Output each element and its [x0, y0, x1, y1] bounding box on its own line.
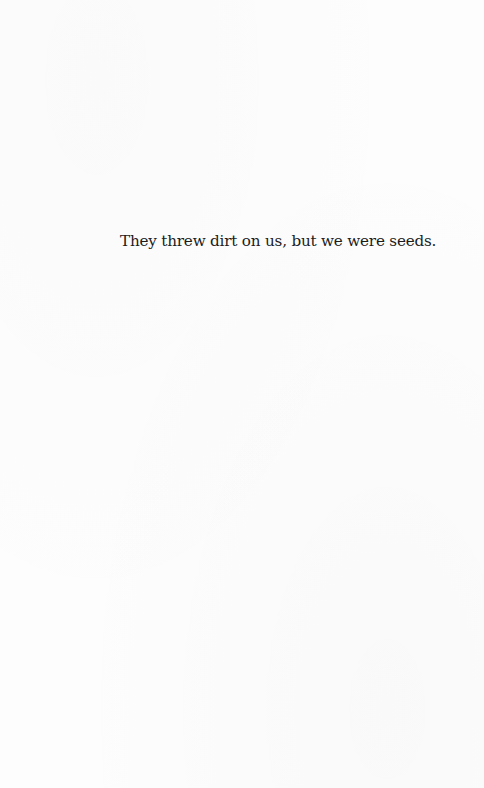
book-page: They threw dirt on us, but we were seeds… — [0, 0, 484, 788]
epigraph-text: They threw dirt on us, but we were seeds… — [120, 231, 436, 251]
